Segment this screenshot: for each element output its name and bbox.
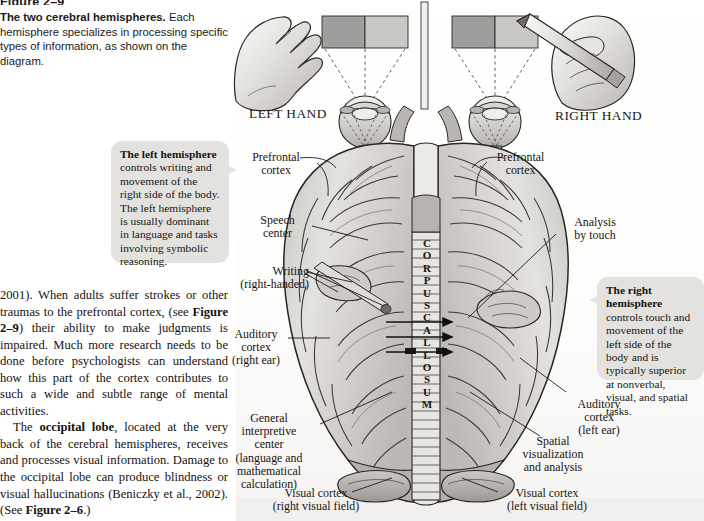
label-prefrontal-cortex-left: Prefrontal cortex — [240, 151, 312, 177]
figure-number: Figure 2–9 — [0, 0, 232, 5]
callout-left-hemisphere: The left hemisphere controls writing and… — [111, 141, 229, 263]
right-hand-illustration — [517, 14, 635, 110]
label-right-hand: RIGHT HAND — [555, 108, 642, 124]
optic-nerve-left — [390, 106, 414, 142]
label-prefrontal-cortex-right: Prefrontal cortex — [482, 151, 559, 177]
callout-left-text: controls writing and movement of the rig… — [120, 161, 220, 267]
label-auditory-cortex-right-ear: Auditory cortex (right ear) — [204, 328, 308, 368]
label-spatial-visualization: Spatial visualization and analysis — [511, 435, 595, 475]
visual-field-card-left — [322, 16, 408, 48]
optic-nerve-right — [438, 106, 462, 142]
body-text-column: 2001). When adults suffer strokes or oth… — [0, 287, 228, 519]
callout-right-hemisphere: The right hemisphere controls touch and … — [597, 277, 704, 380]
label-speech-center: Speech center — [243, 214, 312, 240]
label-writing-right-handed: Writing (right-handed) — [205, 265, 309, 291]
figure-header: Figure 2–9 The two cerebral hemispheres.… — [0, 0, 232, 68]
label-general-interpretive-center: General interpretive center (language an… — [214, 412, 324, 491]
body-paragraph-1: 2001). When adults suffer strokes or oth… — [0, 287, 228, 419]
left-hand-illustration — [234, 17, 322, 111]
label-visual-cortex-right-field: Visual cortex (right visual field) — [262, 487, 370, 513]
label-left-hand: LEFT HAND — [249, 106, 327, 122]
figure-caption: The two cerebral hemispheres. Each hemis… — [0, 10, 232, 68]
callout-left-title: The left hemisphere — [120, 148, 217, 160]
body-paragraph-2: The occipital lobe, located at the very … — [0, 419, 228, 518]
label-corpus-callosum: CORPUSCALLOSUM — [419, 237, 435, 411]
fixation-bar — [421, 2, 428, 109]
label-auditory-cortex-left-ear: Auditory cortex (left ear) — [560, 398, 638, 438]
callout-right-title: The right hemisphere — [606, 284, 662, 309]
label-analysis-by-touch: Analysis by touch — [559, 216, 631, 242]
figure-page: Figure 2–9 The two cerebral hemispheres.… — [0, 0, 704, 521]
label-visual-cortex-left-field: Visual cortex (left visual field) — [492, 487, 602, 513]
figure-caption-bold: The two cerebral hemispheres. — [0, 11, 166, 23]
